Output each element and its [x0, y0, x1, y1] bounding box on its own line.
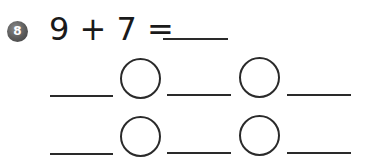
row2-operator-circle-1[interactable] [120, 116, 161, 157]
row1-blank-1[interactable] [50, 95, 113, 97]
row1-blank-2[interactable] [167, 94, 231, 96]
row1-blank-3[interactable] [287, 94, 351, 96]
row2-blank-2[interactable] [167, 152, 231, 154]
row2-blank-1[interactable] [50, 153, 113, 155]
row2-blank-3[interactable] [287, 152, 351, 154]
row2-operator-circle-2[interactable] [239, 115, 280, 156]
equation-text: 9 + 7 = [49, 9, 184, 49]
row1-operator-circle-2[interactable] [239, 57, 280, 98]
answer-blank[interactable] [163, 38, 228, 40]
row1-operator-circle-1[interactable] [120, 58, 161, 99]
problem-number-badge: 8 [7, 21, 28, 42]
